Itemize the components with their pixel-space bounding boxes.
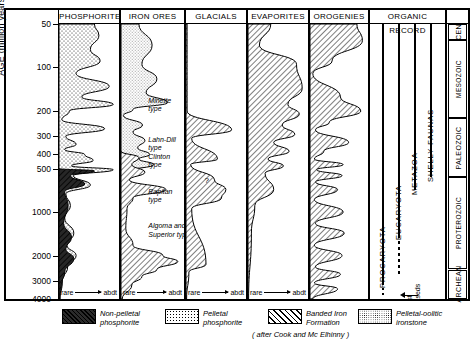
- curve-annotation: Rapitantype: [148, 188, 172, 204]
- legend-swatch: [358, 309, 392, 324]
- legend-swatch: [62, 309, 96, 324]
- scale-arrow: [202, 292, 228, 293]
- abundance-scale: rareabdt: [248, 287, 308, 298]
- y-tick-label: 200: [0, 106, 51, 116]
- y-tick-label: 50: [0, 19, 51, 29]
- era-label: ARCHEAN: [454, 266, 461, 303]
- legend-item: Pelletalphosphorite: [165, 309, 242, 328]
- era-band: MESOZOIC: [448, 40, 467, 118]
- era-band: CEN: [448, 24, 467, 40]
- curve-annotation: ?: [205, 176, 209, 185]
- era-label: PROTEROZOIC: [454, 197, 461, 249]
- legend-swatch: [268, 309, 302, 324]
- organic-record-header: ORGANIC RECORD: [369, 10, 446, 24]
- y-tick-label: 500: [0, 164, 51, 174]
- oldest-metaseds-arrow: [404, 295, 418, 296]
- column-curve: [186, 24, 247, 299]
- organic-range-dashed: [398, 235, 400, 274]
- oldest-metaseds-note: oldestmetaseds: [406, 284, 422, 300]
- legend-swatch: [165, 309, 199, 324]
- y-tick: [53, 299, 58, 300]
- era-column-header: [446, 10, 468, 24]
- legend-item: Banded IronFormation: [268, 309, 347, 328]
- scale-high-label: abdt: [103, 289, 117, 296]
- scale-arrow: [75, 292, 101, 293]
- abundance-scale: rareabdt: [186, 287, 246, 298]
- scale-high-label: abdt: [292, 289, 306, 296]
- column-curve: [310, 24, 369, 299]
- column-header: PHOSPHORITES: [58, 10, 120, 24]
- y-tick-label: 2000: [0, 251, 51, 261]
- figure-root: AGE (million years) 50100200300400500100…: [0, 0, 475, 345]
- era-column: CENMESOZOICPALEOZOICPROTEROZOICARCHEAN: [446, 24, 468, 299]
- curve-annotation: Clintontype: [148, 153, 170, 169]
- legend-label: Pelletalphosphorite: [203, 309, 242, 328]
- scale-low-label: rare: [61, 289, 73, 296]
- column-header: IRON ORES: [120, 10, 185, 24]
- y-tick-label: 400: [0, 149, 51, 159]
- y-tick-label: 100: [0, 62, 51, 72]
- era-band: ARCHEAN: [448, 270, 467, 299]
- organic-label: EUCARYOTA: [394, 185, 403, 240]
- era-label: MESOZOIC: [454, 60, 461, 98]
- legend-item: Pelletal-ooliticironstone: [358, 309, 442, 328]
- organic-record-plot: PROCARYOTAEUCARYOTAMETAZOASHELLY FAUNASo…: [369, 24, 446, 299]
- scale-arrow: [137, 292, 166, 293]
- column-plot: rareabdt: [247, 24, 309, 299]
- column-plot: rareabdt: [58, 24, 120, 299]
- column-plot: rareabdt?: [185, 24, 247, 299]
- column-curve: [59, 24, 120, 299]
- scale-low-label: rare: [188, 289, 200, 296]
- column-header: EVAPORITES: [247, 10, 309, 24]
- column-curve: [248, 24, 309, 299]
- column-plot: rareabdtMinettetypeLahn-DilltypeClintont…: [120, 24, 185, 299]
- column-plot: [309, 24, 369, 299]
- credit-note: ( after Cook and Mc Elhinny ): [252, 330, 349, 339]
- y-tick-label: 300: [0, 131, 51, 141]
- organic-label: METAZOA: [410, 152, 419, 195]
- scale-low-label: rare: [250, 289, 262, 296]
- y-tick-label: 3000: [0, 276, 51, 286]
- organic-label: SHELLY FAUNAS: [426, 109, 435, 182]
- legend: Non-pelletalphosphoritePelletalphosphori…: [0, 303, 475, 345]
- curve-annotation: Lahn-Dilltype: [148, 136, 176, 152]
- scale-arrow: [264, 292, 290, 293]
- abundance-scale: rareabdt: [121, 287, 184, 298]
- scale-low-label: rare: [123, 289, 135, 296]
- era-label: PALEOZOIC: [454, 126, 461, 169]
- legend-label: Pelletal-ooliticironstone: [396, 309, 442, 328]
- column-header: OROGENIES: [309, 10, 369, 24]
- era-band: PALEOZOIC: [448, 118, 467, 176]
- legend-label: Non-pelletalphosphorite: [100, 309, 140, 328]
- curve-annotation: Algoma andSuperior types: [148, 222, 185, 238]
- curve-annotation: Minettetype: [148, 97, 171, 113]
- scale-high-label: abdt: [168, 289, 182, 296]
- scale-high-label: abdt: [230, 289, 244, 296]
- y-tick-label: 1000: [0, 207, 51, 217]
- legend-item: Non-pelletalphosphorite: [62, 309, 140, 328]
- y-axis-label: AGE (million years): [0, 0, 10, 95]
- organic-label: PROCARYOTA: [378, 226, 387, 288]
- legend-label: Banded IronFormation: [306, 309, 347, 328]
- era-band: PROTEROZOIC: [448, 177, 467, 270]
- column-header: GLACIALS: [185, 10, 247, 24]
- abundance-scale: rareabdt: [59, 287, 119, 298]
- era-label: CEN: [454, 24, 461, 40]
